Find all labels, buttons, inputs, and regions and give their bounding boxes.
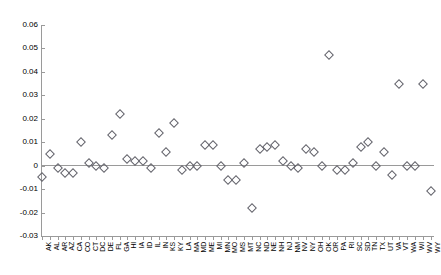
data-point [340,165,350,175]
data-point [410,161,420,171]
data-point [394,79,404,89]
data-point [208,140,218,150]
data-point [45,149,55,159]
data-point [107,130,117,140]
data-point [317,161,327,171]
data-point [161,147,171,157]
data-point [239,158,249,168]
data-point [231,175,241,185]
data-point [348,158,358,168]
data-point [371,161,381,171]
data-point [169,119,179,129]
data-point [99,163,109,173]
data-point [115,109,125,119]
data-point [154,128,164,138]
data-point [146,163,156,173]
data-point [216,161,226,171]
data-point [325,51,335,61]
data-point [379,147,389,157]
data-point [387,170,397,180]
data-point [68,168,78,178]
data-point [426,186,436,196]
data-point [247,203,257,213]
data-point [37,172,47,182]
data-point [192,161,202,171]
data-point [293,163,303,173]
data-point [76,137,86,147]
data-point [270,140,280,150]
data-point [138,156,148,166]
data-point [418,79,428,89]
